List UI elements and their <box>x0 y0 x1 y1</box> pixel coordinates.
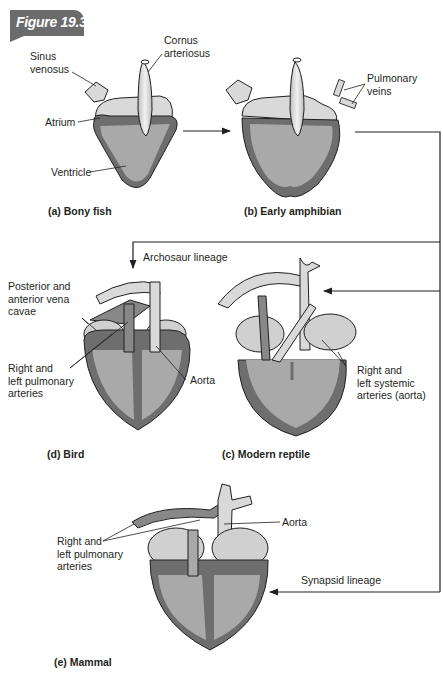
caption-bird: (d) Bird <box>47 448 84 460</box>
label-systemic-arteries: Right and left systemic arteries (aorta) <box>357 364 426 402</box>
heart-bird <box>70 282 190 430</box>
label-vena-cavae: Posterior and anterior vena cavae <box>8 280 70 318</box>
label-archosaur-lineage: Archosaur lineage <box>143 251 228 264</box>
heart-mammal <box>103 484 280 650</box>
label-mammal-aorta: Aorta <box>282 516 307 529</box>
label-sinus-venosus: Sinus venosus <box>30 50 69 75</box>
label-pulmonary-veins: Pulmonary veins <box>367 72 417 97</box>
heart-modern-reptile <box>218 258 356 436</box>
lineage-connector-main <box>355 132 440 565</box>
label-bird-pulmonary-arteries: Right and left pulmonary arteries <box>8 362 74 400</box>
label-atrium: Atrium <box>45 116 75 129</box>
label-bird-aorta: Aorta <box>190 374 215 387</box>
label-cornus-arteriosus: Cornus arteriosus <box>164 34 210 59</box>
label-synapsid-lineage: Synapsid lineage <box>301 574 381 587</box>
caption-modern-reptile: (c) Modern reptile <box>222 448 310 460</box>
caption-early-amphibian: (b) Early amphibian <box>244 205 341 217</box>
label-ventricle: Ventricle <box>51 166 91 179</box>
caption-bony-fish: (a) Bony fish <box>48 205 112 217</box>
label-mammal-pulmonary-arteries: Right and left pulmonary arteries <box>57 535 123 573</box>
heart-early-amphibian <box>226 58 365 197</box>
caption-mammal: (e) Mammal <box>54 656 112 668</box>
